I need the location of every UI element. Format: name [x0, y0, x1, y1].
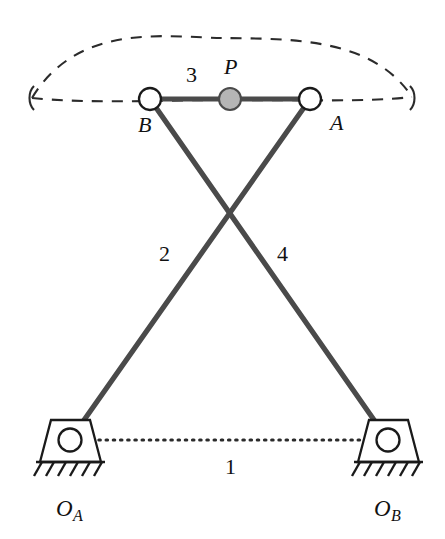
label-ground-b-subscript: B: [391, 507, 401, 524]
label-ground-a-letter: O: [56, 496, 73, 521]
label-ground-a: OA: [56, 497, 83, 524]
coupler-curve-upper-arc: [32, 36, 412, 98]
joint-b-pin: [139, 88, 161, 110]
label-point-a: A: [330, 112, 343, 134]
label-ground-b-letter: O: [374, 496, 391, 521]
joint-a-pin: [299, 88, 321, 110]
label-link-2: 2: [159, 243, 170, 265]
figure-canvas: P 3 B A 2 4 1 OA OB: [0, 0, 445, 539]
coupler-curve-right-tip: [410, 86, 415, 110]
label-link-1: 1: [225, 456, 236, 478]
link-2-crank: [70, 99, 310, 440]
label-point-b: B: [138, 114, 151, 136]
support-left-hatching: [34, 462, 102, 476]
label-link-4: 4: [277, 243, 288, 265]
link-4-rocker: [150, 99, 388, 440]
support-right-hatching: [352, 462, 420, 476]
label-point-p: P: [224, 56, 237, 78]
label-ground-a-subscript: A: [73, 507, 83, 524]
label-ground-b: OB: [374, 497, 401, 524]
ground-support-right: [352, 420, 423, 476]
label-link-3: 3: [186, 64, 197, 86]
joint-ground-a-pin: [59, 429, 82, 452]
joint-ground-b-pin: [377, 429, 400, 452]
coupler-point-p: [219, 88, 241, 110]
linkage-diagram-svg: [0, 0, 445, 539]
ground-support-left: [34, 420, 105, 476]
